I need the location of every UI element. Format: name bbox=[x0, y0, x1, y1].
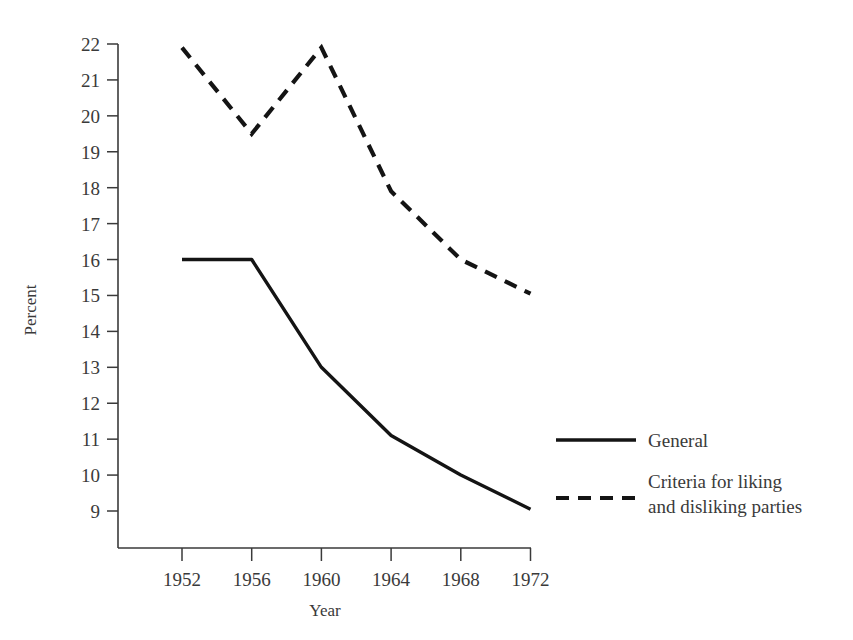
y-tick-label: 13 bbox=[81, 357, 100, 378]
x-tick-label: 1960 bbox=[302, 569, 340, 590]
y-tick-label: 22 bbox=[81, 34, 100, 55]
chart-legend: General Criteria for liking and dislikin… bbox=[556, 430, 802, 517]
x-axis-ticks bbox=[182, 548, 531, 561]
y-tick-label: 21 bbox=[81, 70, 100, 91]
y-tick-label: 10 bbox=[81, 465, 100, 486]
y-tick-label: 11 bbox=[82, 429, 100, 450]
y-tick-label: 15 bbox=[81, 285, 100, 306]
y-axis-ticks bbox=[107, 44, 118, 511]
x-tick-label: 1956 bbox=[233, 569, 271, 590]
chart-container: 910111213141516171819202122 195219561960… bbox=[0, 0, 853, 640]
y-axis-tick-labels: 910111213141516171819202122 bbox=[81, 34, 101, 522]
y-tick-label: 17 bbox=[81, 214, 100, 235]
x-tick-label: 1972 bbox=[512, 569, 550, 590]
series-line-general bbox=[182, 260, 531, 510]
y-tick-label: 20 bbox=[81, 106, 100, 127]
legend-label-criteria-line2: and disliking parties bbox=[648, 496, 802, 517]
y-axis-title: Percent bbox=[21, 284, 40, 335]
series-line-criteria bbox=[182, 48, 531, 294]
x-axis-title: Year bbox=[309, 601, 341, 620]
y-tick-label: 19 bbox=[81, 142, 100, 163]
x-axis-tick-labels: 195219561960196419681972 bbox=[163, 569, 550, 590]
x-tick-label: 1968 bbox=[442, 569, 480, 590]
y-tick-label: 16 bbox=[81, 250, 100, 271]
y-tick-label: 9 bbox=[91, 501, 101, 522]
y-tick-label: 12 bbox=[81, 393, 100, 414]
x-tick-label: 1964 bbox=[372, 569, 411, 590]
y-tick-label: 14 bbox=[81, 321, 101, 342]
x-tick-label: 1952 bbox=[163, 569, 201, 590]
legend-label-criteria-line1: Criteria for liking bbox=[648, 471, 783, 492]
line-chart-figure: 910111213141516171819202122 195219561960… bbox=[0, 0, 853, 640]
y-tick-label: 18 bbox=[81, 178, 100, 199]
legend-label-general: General bbox=[648, 430, 708, 451]
